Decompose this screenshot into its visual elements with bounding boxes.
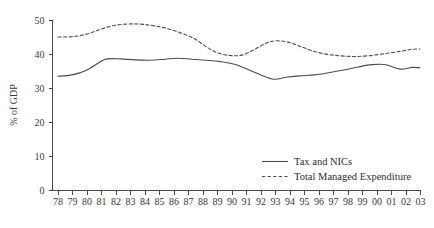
x-tick-label: 85 (155, 196, 165, 207)
chart-legend: Tax and NICsTotal Managed Expenditure (262, 156, 411, 182)
legend-label: Total Managed Expenditure (294, 171, 411, 182)
x-tick-label: 81 (97, 196, 107, 207)
series-line-total-managed-expenditure (58, 24, 420, 57)
x-tick-group: 7879808182838485868788899091929394959697… (53, 191, 426, 207)
x-tick-label: 02 (401, 196, 411, 207)
chart-container: 01020304050 % of GDP 7879808182838485868… (0, 0, 434, 228)
x-tick-label: 84 (140, 196, 150, 207)
x-tick-label: 96 (314, 196, 324, 207)
x-tick-label: 99 (358, 196, 368, 207)
y-tick-label: 30 (35, 83, 45, 94)
y-tick-label: 20 (35, 117, 45, 128)
data-series-group (58, 24, 420, 79)
x-tick-label: 89 (213, 196, 223, 207)
legend-label: Tax and NICs (294, 156, 352, 167)
y-axis-group: 01020304050 % of GDP (8, 15, 53, 197)
x-tick-label: 88 (198, 196, 208, 207)
y-tick-label: 10 (35, 151, 45, 162)
x-tick-label: 83 (126, 196, 136, 207)
x-tick-label: 92 (256, 196, 266, 207)
x-tick-label: 86 (169, 196, 179, 207)
x-tick-label: 82 (111, 196, 121, 207)
x-tick-label: 80 (82, 196, 92, 207)
series-line-tax-and-nics (58, 58, 420, 79)
x-tick-label: 97 (329, 196, 339, 207)
x-tick-label: 98 (343, 196, 353, 207)
y-tick-label: 40 (35, 49, 45, 60)
x-tick-label: 90 (227, 196, 237, 207)
x-tick-label: 95 (300, 196, 310, 207)
y-tick-label: 50 (35, 15, 45, 26)
line-chart: 01020304050 % of GDP 7879808182838485868… (0, 0, 434, 228)
x-tick-label: 93 (271, 196, 281, 207)
x-tick-label: 01 (387, 196, 397, 207)
x-tick-label: 03 (416, 196, 426, 207)
x-tick-label: 78 (53, 196, 63, 207)
x-tick-label: 94 (285, 196, 295, 207)
x-axis-group: 7879808182838485868788899091929394959697… (53, 191, 426, 207)
y-axis-title: % of GDP (8, 84, 19, 126)
x-tick-label: 79 (68, 196, 78, 207)
x-tick-label: 91 (242, 196, 252, 207)
y-axis-title-text: % of GDP (8, 84, 19, 126)
x-tick-label: 00 (372, 196, 382, 207)
y-tick-group: 01020304050 (35, 15, 53, 197)
y-tick-label: 0 (40, 185, 45, 196)
x-tick-label: 87 (184, 196, 194, 207)
